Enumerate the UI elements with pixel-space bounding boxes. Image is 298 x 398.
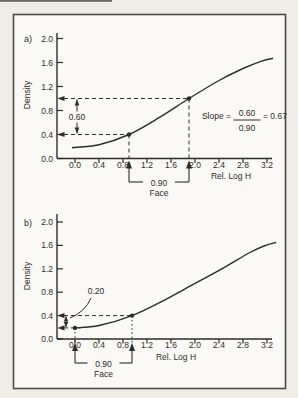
figure-svg: 0.00.40.81.21.62.02.42.83.20.00.40.81.21…	[0, 0, 298, 398]
x-tick-label: 2.4	[213, 340, 225, 350]
y-tick-label: 0.4	[41, 130, 53, 140]
slope-denominator: 0.90	[239, 123, 256, 133]
bracket-label: 0.90	[151, 178, 168, 188]
x-tick-label: 3.2	[261, 340, 273, 350]
bracket-sublabel: Face	[94, 369, 113, 379]
slope-numerator: 0.60	[239, 108, 256, 118]
y-tick-label: 0.8	[41, 287, 53, 297]
y-tick-label: 0.0	[41, 154, 53, 164]
y-axis-title: Density	[22, 261, 32, 290]
x-tick-label: 2.8	[237, 340, 249, 350]
y-tick-label: 1.6	[41, 240, 53, 250]
x-axis-title: Rel. Log H	[211, 171, 251, 181]
x-axis-title: Rel. Log H	[156, 352, 196, 362]
figure-page: 0.00.40.81.21.62.02.42.83.20.00.40.81.21…	[0, 0, 298, 398]
x-tick-label: 1.2	[141, 160, 153, 170]
scan-artifact	[0, 0, 112, 2]
panel-label: b)	[24, 218, 32, 228]
slope-rhs: = 0.67	[263, 111, 287, 121]
bracket-sublabel: Face	[150, 188, 169, 198]
y-tick-label: 0.0	[41, 334, 53, 344]
y-tick-label: 2.0	[41, 34, 53, 44]
x-tick-label: 1.2	[141, 340, 153, 350]
curve-point	[130, 313, 134, 317]
y-tick-label: 1.2	[41, 82, 53, 92]
curve-point	[127, 132, 131, 136]
delta-label: 0.20	[88, 286, 105, 296]
y-tick-label: 2.0	[41, 217, 53, 227]
bracket-label: 0.90	[95, 359, 112, 369]
x-tick-label: 0.0	[69, 160, 81, 170]
x-tick-label: 0.8	[117, 340, 129, 350]
panel-label: a)	[24, 34, 32, 44]
delta-label: 0.60	[69, 112, 86, 122]
curve-point	[73, 326, 77, 330]
figure-frame	[14, 15, 286, 389]
x-tick-label: 3.2	[261, 160, 273, 170]
y-axis-title: Density	[22, 80, 32, 109]
x-tick-label: 2.0	[189, 340, 201, 350]
x-tick-label: 0.4	[93, 160, 105, 170]
y-tick-label: 0.8	[41, 106, 53, 116]
x-tick-label: 1.6	[165, 160, 177, 170]
y-tick-label: 1.6	[41, 58, 53, 68]
x-tick-label: 2.4	[213, 160, 225, 170]
x-tick-label: 2.8	[237, 160, 249, 170]
curve-point	[187, 96, 191, 100]
y-tick-label: 0.4	[41, 311, 53, 321]
slope-lhs: Slope =	[202, 111, 231, 121]
y-tick-label: 1.2	[41, 264, 53, 274]
x-tick-label: 1.6	[165, 340, 177, 350]
x-tick-label: 0.4	[93, 340, 105, 350]
